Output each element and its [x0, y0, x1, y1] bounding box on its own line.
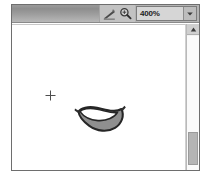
banana-shape — [74, 95, 132, 135]
zoom-level-combobox[interactable]: 400% — [136, 6, 197, 21]
scrollbar-thumb[interactable] — [188, 132, 198, 165]
zoom-tool-icon[interactable] — [119, 7, 132, 20]
scroll-up-arrow-icon[interactable] — [187, 24, 199, 35]
chevron-down-icon[interactable] — [183, 7, 196, 20]
vertical-scrollbar[interactable] — [186, 24, 199, 170]
image-editor-window: 400% — [11, 4, 200, 171]
toolbar-drag-handle[interactable] — [12, 5, 100, 22]
toolbar: 400% — [12, 5, 199, 23]
zoom-level-value[interactable]: 400% — [137, 10, 183, 18]
drawing-canvas[interactable] — [12, 24, 186, 170]
toolbar-tool-group — [100, 5, 135, 22]
crosshair-marker — [45, 87, 56, 98]
scrollbar-track[interactable] — [187, 36, 199, 170]
pencil-tool-icon[interactable] — [103, 7, 116, 20]
